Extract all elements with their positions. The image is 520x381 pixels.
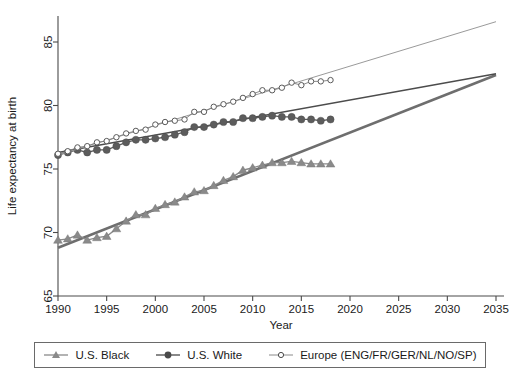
chart-legend: U.S. BlackU.S. WhiteEurope (ENG/FR/GER/N… [34,342,486,368]
y-tick-label: 80 [42,99,54,112]
chart-axes: 6570758085199019952000200520102015202020… [6,16,509,331]
triangle-legend-marker [43,349,69,361]
legend-item-u-s-white[interactable]: U.S. White [155,349,242,361]
y-axis-title: Life expectancy at birth [6,97,18,215]
x-tick-label: 2015 [289,303,315,315]
open-circle-legend-marker [268,349,294,361]
y-tick-label: 70 [42,226,54,239]
legend-item-u-s-black[interactable]: U.S. Black [43,349,129,361]
series-u-s-black [54,75,496,248]
y-tick-label: 65 [42,290,54,303]
x-tick-label: 1990 [45,303,71,315]
legend-item-label: U.S. Black [75,349,129,361]
chart-canvas: 6570758085199019952000200520102015202020… [0,0,520,381]
x-tick-label: 2010 [240,303,266,315]
legend-item-label: U.S. White [187,349,242,361]
x-tick-label: 2035 [483,303,509,315]
chart-figure: 6570758085199019952000200520102015202020… [0,0,520,381]
series-europe-eng-fr-ger-nl-no-sp [55,22,496,157]
y-tick-label: 85 [42,36,54,49]
x-tick-label: 2005 [191,303,217,315]
legend-item-europe-eng-fr-ger-nl-no-sp[interactable]: Europe (ENG/FR/GER/NL/NO/SP) [268,349,476,361]
y-tick-label: 75 [42,163,54,176]
series-u-s-white [54,74,496,159]
x-tick-label: 1995 [94,303,120,315]
x-tick-label: 2000 [143,303,169,315]
x-tick-label: 2025 [386,303,412,315]
x-tick-label: 2030 [435,303,461,315]
x-tick-label: 2020 [337,303,363,315]
filled-circle-legend-marker [155,349,181,361]
legend-item-label: Europe (ENG/FR/GER/NL/NO/SP) [300,349,476,361]
x-axis-title: Year [269,319,292,331]
chart-series-layer [54,22,496,248]
